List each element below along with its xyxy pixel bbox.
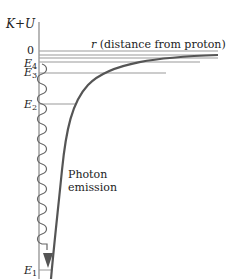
y-axis-label: K+U <box>5 17 36 31</box>
energy-level-diagram: K+U 0 E4 E3 E2 E1 r (distance from proto… <box>0 0 228 279</box>
annotation-line-1: Photon <box>68 168 107 181</box>
energy-curve <box>51 55 218 279</box>
x-axis-label: r (distance from proton) <box>91 38 226 51</box>
zero-label: 0 <box>27 44 34 57</box>
annotation-line-2: emission <box>68 181 117 194</box>
label-e1: E1 <box>23 264 37 278</box>
label-e2: E2 <box>23 98 37 112</box>
